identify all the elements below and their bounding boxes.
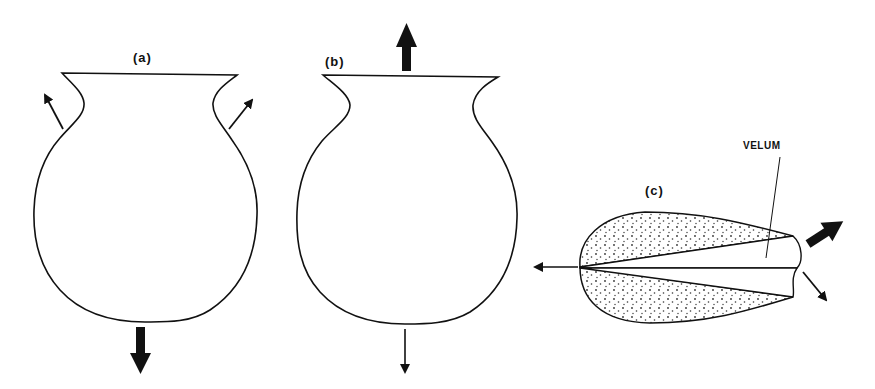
panel-label-b: (b) bbox=[325, 54, 345, 69]
thick-arrow-c-up-right-icon bbox=[802, 212, 849, 253]
velum-label: VELUM bbox=[743, 140, 781, 151]
bell-b bbox=[297, 75, 517, 324]
bell-a bbox=[34, 73, 257, 322]
arrow-a-right-outward bbox=[229, 100, 252, 129]
diagram-canvas bbox=[0, 0, 875, 389]
panel-label-a: (a) bbox=[133, 50, 152, 65]
panel-label-c: (c) bbox=[645, 183, 664, 198]
thick-arrow-b-up-icon bbox=[396, 23, 417, 71]
arrow-a-left-outward bbox=[45, 95, 63, 129]
medusa-c-side-view bbox=[580, 157, 801, 323]
arrow-c-down-right bbox=[803, 272, 826, 300]
thick-arrow-a-down-icon bbox=[130, 327, 151, 374]
